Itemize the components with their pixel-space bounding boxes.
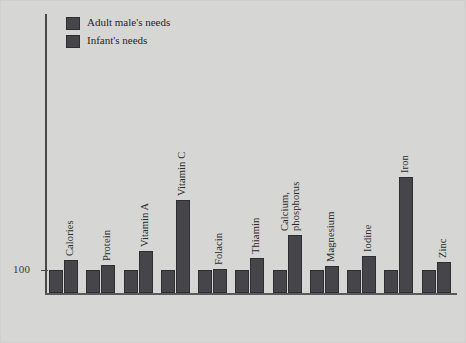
bar-group: Iodine [347,14,384,293]
x-axis-line [45,293,457,295]
category-label: Thiamin [250,218,261,254]
bar-infant [362,256,376,293]
category-label: Protein [101,230,112,261]
bar-group: Iron [384,14,421,293]
category-label: Iron [399,155,410,173]
y-axis-tick-label-100: 100 [13,263,30,275]
legend-label-adult-male: Adult male's needs [87,16,170,29]
category-label: Zinc [437,239,448,259]
bar-group: Folacin [198,14,235,293]
bar-infant [437,262,451,293]
bar-adult-male [161,270,175,293]
category-label: Vitamin C [176,152,187,196]
bar-group: Vitamin C [161,14,198,293]
figure-bar-chart: 100 CaloriesProteinVitamin AVitamin CFol… [0,0,466,343]
bar-infant [250,258,264,293]
bar-group: Calories [49,14,86,293]
bar-infant [399,177,413,293]
bar-group: Calcium, phosphorus [273,14,310,293]
bar-group: Protein [86,14,123,293]
bar-group: Thiamin [235,14,272,293]
legend: Adult male's needs Infant's needs [66,16,206,52]
bar-adult-male [198,270,212,293]
bar-adult-male [384,270,398,293]
bar-infant [139,251,153,293]
bar-adult-male [422,270,436,293]
legend-swatch-adult-male-icon [66,17,80,30]
bar-infant [64,260,78,293]
bar-adult-male [273,270,287,293]
bar-infant [325,266,339,293]
legend-swatch-infant-icon [66,35,80,48]
category-label: Calcium, phosphorus [279,161,301,231]
bar-adult-male [235,270,249,293]
bar-group: Magnesium [310,14,347,293]
category-label: Iodine [362,224,373,251]
bar-group: Vitamin A [124,14,161,293]
bar-infant [101,265,115,293]
legend-label-infant: Infant's needs [87,34,147,47]
category-label: Calories [64,220,75,256]
legend-item-infant: Infant's needs [66,34,206,48]
bar-adult-male [310,270,324,293]
bar-groups: CaloriesProteinVitamin AVitamin CFolacin… [47,14,457,293]
bar-group: Zinc [422,14,459,293]
category-label: Folacin [213,233,224,265]
bar-infant [213,269,227,293]
plot-area: 100 CaloriesProteinVitamin AVitamin CFol… [45,14,457,294]
category-label: Vitamin A [139,203,150,247]
bar-adult-male [124,270,138,293]
bar-infant [288,235,302,293]
bar-adult-male [347,270,361,293]
bar-adult-male [49,270,63,293]
category-label: Magnesium [325,212,336,262]
bar-adult-male [86,270,100,293]
legend-item-adult-male: Adult male's needs [66,16,206,30]
bar-infant [176,200,190,293]
